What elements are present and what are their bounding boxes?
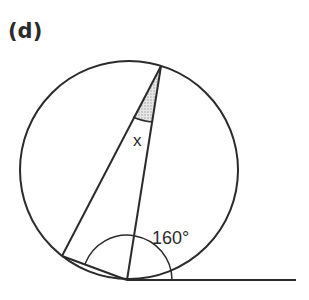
part-label: (d) xyxy=(8,19,42,43)
circle xyxy=(20,61,238,279)
angle-160-label: 160° xyxy=(152,228,189,248)
angle-x-label: x xyxy=(133,131,142,150)
circle-theorem-diagram: (d) x 160° xyxy=(0,0,309,300)
chord-left-to-tangent-point xyxy=(62,256,127,280)
